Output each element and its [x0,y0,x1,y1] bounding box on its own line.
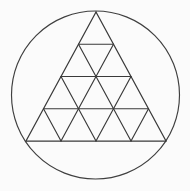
left-lean-1 [61,44,114,141]
left-lean-3 [131,109,149,141]
figure-canvas [0,0,190,191]
triangle-grid-lines [26,12,166,141]
circumscribed-circle [12,11,180,179]
geometry-figure [0,0,190,191]
right-lean-3 [44,109,62,141]
horizontal-grid-lines [26,44,166,141]
right-lean-1 [79,44,132,141]
